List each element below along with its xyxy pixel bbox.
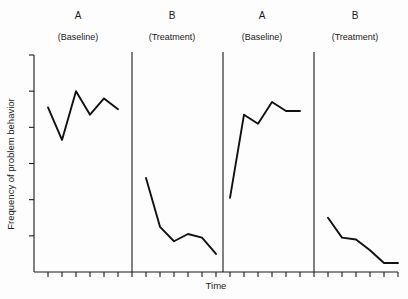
- phase-header-sublabel-1: (Baseline): [58, 32, 99, 42]
- phase-header-sublabel-4: (Treatment): [332, 32, 379, 42]
- phase-header-label-2: B: [169, 10, 176, 21]
- phase-header-label-4: B: [352, 10, 359, 21]
- chart-background: [0, 0, 408, 299]
- phase-header-label-1: A: [75, 10, 82, 21]
- chart-figure: A (Baseline) B (Treatment) A (Baseline) …: [0, 0, 408, 299]
- abab-line-chart: A (Baseline) B (Treatment) A (Baseline) …: [0, 0, 408, 299]
- phase-header-sublabel-3: (Baseline): [242, 32, 283, 42]
- phase-header-label-3: A: [259, 10, 266, 21]
- x-axis-title: Time: [206, 280, 227, 291]
- phase-header-sublabel-2: (Treatment): [149, 32, 196, 42]
- y-axis-title: Frequency of problem behavior: [5, 98, 16, 230]
